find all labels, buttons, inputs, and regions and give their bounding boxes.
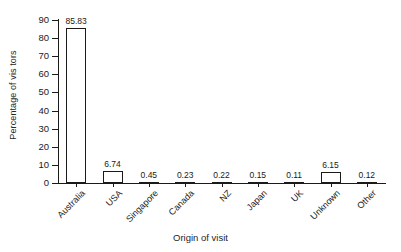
- bar-value-label: 0.45: [129, 171, 169, 180]
- bar-canada: [175, 182, 195, 183]
- bar-unknown: [321, 172, 341, 183]
- x-axis-tick-mark: [222, 184, 223, 187]
- bar-japan: [248, 182, 268, 183]
- bar-value-label: 0.12: [347, 171, 387, 180]
- x-axis-tick-mark: [331, 184, 332, 187]
- x-axis-category-label-other: Other: [355, 188, 378, 211]
- y-axis-tick-mark: [52, 183, 58, 184]
- x-axis-category-label-nz: NZ: [217, 188, 233, 204]
- x-axis-category-label-unknown: Unknown: [308, 188, 342, 222]
- bar-nz: [212, 182, 232, 183]
- x-axis-tick-mark: [258, 184, 259, 187]
- bar-value-label: 0.23: [165, 171, 205, 180]
- bar-uk: [284, 182, 304, 183]
- y-axis-title-text: Percentage of vis tors: [8, 50, 18, 139]
- y-axis-tick-label: 90: [26, 15, 49, 25]
- x-axis-tick-mark: [367, 184, 368, 187]
- y-axis-title: Percentage of vis tors: [0, 0, 26, 190]
- bar-australia: [66, 28, 86, 183]
- x-axis-title: Origin of visit: [0, 232, 401, 243]
- bar-value-label: 0.22: [202, 171, 242, 180]
- y-axis-tick-label: 10: [26, 160, 49, 170]
- y-axis-tick-label: 50: [26, 87, 49, 97]
- x-axis-category-label-uk: UK: [289, 188, 305, 204]
- y-axis-tick-label: 20: [26, 142, 49, 152]
- bar-value-label: 6.15: [311, 161, 351, 170]
- x-axis-tick-mark: [113, 184, 114, 187]
- x-axis-tick-mark: [294, 184, 295, 187]
- y-axis-tick-label: 30: [26, 124, 49, 134]
- bar-usa: [103, 171, 123, 183]
- y-axis-tick-label: 80: [26, 33, 49, 43]
- x-axis-category-label-japan: Japan: [244, 188, 268, 212]
- bar-value-label: 6.74: [93, 160, 133, 169]
- bar-other: [357, 182, 377, 183]
- y-axis-tick-label: 0: [26, 178, 49, 188]
- x-axis-category-label-singapore: Singapore: [124, 188, 160, 224]
- bar-value-label: 0.11: [274, 171, 314, 180]
- y-axis-tick-label: 60: [26, 69, 49, 79]
- x-axis-category-label-usa: USA: [103, 188, 123, 208]
- x-axis-category-label-australia: Australia: [55, 188, 87, 220]
- x-axis-category-label-canada: Canada: [167, 188, 196, 217]
- bar-singapore: [139, 182, 159, 183]
- bar-chart-figure: Percentage of vis tors 01020304050607080…: [0, 0, 401, 252]
- y-axis-tick-label: 70: [26, 51, 49, 61]
- bar-value-label: 0.15: [238, 171, 278, 180]
- x-axis-tick-mark: [185, 184, 186, 187]
- bar-value-label: 85.83: [56, 17, 96, 26]
- x-axis-tick-mark: [76, 184, 77, 187]
- y-axis-tick-label: 40: [26, 106, 49, 116]
- x-axis-tick-mark: [149, 184, 150, 187]
